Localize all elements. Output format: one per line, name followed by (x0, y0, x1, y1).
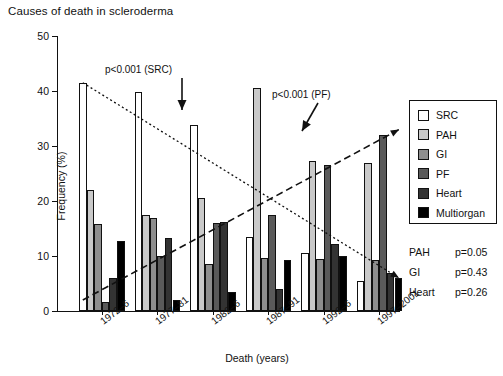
pvalue-name: Heart (409, 286, 435, 298)
legend-swatch-icon (418, 207, 429, 218)
legend-item-pf[interactable]: PF (418, 168, 449, 180)
x-axis-label: Death (years) (57, 352, 457, 364)
legend-item-label: Heart (436, 187, 462, 199)
y-tick-label: 40 (23, 85, 49, 97)
trend-arrowhead-pf (390, 130, 399, 137)
legend-item-label: PAH (436, 129, 457, 141)
y-tick-label: 0 (23, 305, 49, 317)
legend-item-label: GI (436, 148, 447, 160)
annotation-pf: p<0.001 (PF) (272, 89, 331, 100)
trend-line-pf (83, 130, 399, 301)
annotation-src: p<0.001 (SRC) (105, 64, 172, 75)
legend-item-label: SRC (436, 109, 458, 121)
y-tick-label: 20 (23, 195, 49, 207)
page-title: Causes of death in scleroderma (8, 5, 173, 17)
legend-item-label: PF (436, 168, 449, 180)
pvalue-name: GI (409, 266, 420, 278)
legend-item-src[interactable]: SRC (418, 109, 458, 121)
legend-swatch-icon (418, 110, 429, 121)
pvalue-value: p=0.26 (455, 286, 487, 298)
y-tick-label: 30 (23, 140, 49, 152)
trend-arrowhead-src (390, 271, 399, 278)
y-tick-label: 50 (23, 30, 49, 42)
trend-lines-overlay (57, 36, 400, 312)
legend-swatch-icon (418, 129, 429, 140)
legend-item-label: Multiorgan (436, 207, 485, 219)
y-axis-label: Frequency (%) (55, 152, 67, 221)
plot-area: 01020304050 1972–61977–811982–61987–9119… (57, 36, 400, 312)
legend-item-multiorgan[interactable]: Multiorgan (418, 207, 485, 219)
pvalue-value: p=0.05 (455, 246, 487, 258)
legend-swatch-icon (418, 149, 429, 160)
legend-box: SRCPAHGIPFHeartMultiorgan (409, 100, 497, 224)
legend-swatch-icon (418, 168, 429, 179)
trend-line-src (83, 83, 399, 278)
legend-item-gi[interactable]: GI (418, 148, 447, 160)
legend-item-pah[interactable]: PAH (418, 129, 457, 141)
pvalue-name: PAH (409, 246, 430, 258)
legend-item-heart[interactable]: Heart (418, 187, 462, 199)
legend-swatch-icon (418, 188, 429, 199)
figure-canvas: Causes of death in scleroderma 010203040… (0, 0, 503, 376)
y-tick-label: 10 (23, 250, 49, 262)
pvalue-value: p=0.43 (455, 266, 487, 278)
